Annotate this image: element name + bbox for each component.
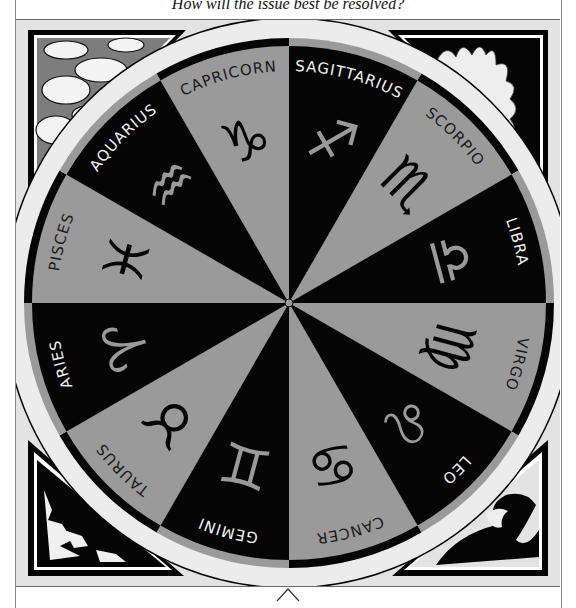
question-text: How will the issue best be resolved?	[16, 0, 560, 18]
wheel-hub	[285, 299, 293, 307]
up-arrow-icon[interactable]	[276, 586, 300, 602]
zodiac-panel: SAGITTARIUSSCORPIOLIBRAVIRGOLEOCANCERGEM…	[16, 19, 560, 587]
zodiac-wheel: SAGITTARIUSSCORPIOLIBRAVIRGOLEOCANCERGEM…	[16, 20, 560, 586]
